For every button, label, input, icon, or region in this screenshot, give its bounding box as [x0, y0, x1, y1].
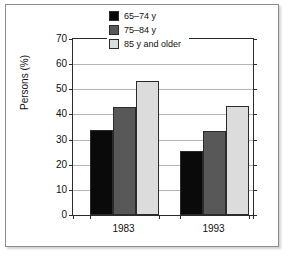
- chart-legend: 65–74 y75–84 y85 y and older: [107, 7, 189, 53]
- legend-item: 75–84 y: [109, 23, 187, 37]
- legend-label: 65–74 y: [124, 11, 156, 21]
- y-axis-tick: [69, 64, 73, 65]
- x-axis-tick: [90, 215, 91, 219]
- y-axis-tick-label: 0: [61, 210, 67, 220]
- y-axis-tick: [69, 114, 73, 115]
- legend-label: 85 y and older: [124, 39, 181, 49]
- legend-label: 75–84 y: [124, 25, 156, 35]
- y-axis-tick-label: 70: [56, 34, 67, 44]
- legend-swatch-icon: [109, 25, 119, 35]
- bar: [136, 81, 159, 216]
- y-axis-tick-label: 30: [56, 135, 67, 145]
- y-axis-tick: [253, 89, 257, 90]
- y-axis-tick-label: 10: [56, 185, 67, 195]
- y-axis-tick: [69, 190, 73, 191]
- legend-item: 85 y and older: [109, 37, 187, 51]
- y-axis-tick-label: 20: [56, 160, 67, 170]
- y-axis-tick-label: 40: [56, 109, 67, 119]
- y-axis-tick: [253, 140, 257, 141]
- gridline: [73, 89, 253, 90]
- y-axis-tick: [253, 215, 257, 216]
- chart-figure: 010203040506070 Persons (%) 19831993 65–…: [0, 0, 289, 258]
- y-axis-tick-label: 60: [56, 59, 67, 69]
- y-axis-tick: [69, 215, 73, 216]
- bar: [180, 151, 203, 215]
- y-axis-tick: [253, 39, 257, 40]
- y-axis-tick: [253, 114, 257, 115]
- figure-frame: 010203040506070 Persons (%) 19831993 65–…: [5, 4, 279, 247]
- x-axis-tick: [180, 215, 181, 219]
- x-axis-tick: [73, 215, 74, 219]
- x-axis-tick: [159, 215, 160, 219]
- bar: [226, 106, 249, 215]
- x-axis-tick: [249, 215, 250, 219]
- plot-area: [72, 38, 254, 216]
- y-axis-tick: [69, 165, 73, 166]
- gridline: [73, 64, 253, 65]
- legend-item: 65–74 y: [109, 9, 187, 23]
- y-axis-tick: [253, 165, 257, 166]
- y-axis-tick: [253, 190, 257, 191]
- y-axis-tick-labels: 010203040506070: [42, 38, 67, 216]
- bar: [203, 131, 226, 215]
- y-axis-tick: [253, 64, 257, 65]
- x-axis-category-labels: 19831993: [72, 221, 254, 237]
- x-axis-category-label: 1993: [184, 223, 244, 234]
- x-axis-category-label: 1983: [94, 223, 154, 234]
- y-axis-title: Persons (%): [19, 28, 30, 138]
- y-axis-tick: [69, 89, 73, 90]
- y-axis-tick-label: 50: [56, 84, 67, 94]
- legend-swatch-icon: [109, 39, 119, 49]
- bar: [113, 107, 136, 215]
- y-axis-tick: [69, 140, 73, 141]
- legend-swatch-icon: [109, 11, 119, 21]
- y-axis-tick: [69, 39, 73, 40]
- bar: [90, 130, 113, 215]
